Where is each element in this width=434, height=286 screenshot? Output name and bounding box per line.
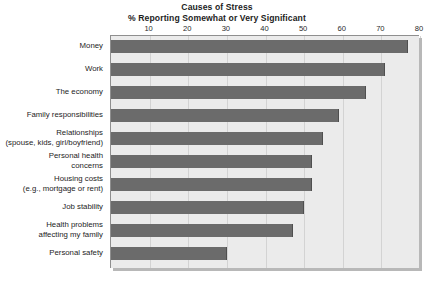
category-label-0: Money	[0, 41, 103, 50]
bar-3	[111, 109, 339, 122]
category-label-1: Work	[0, 64, 103, 73]
category-label-2: The economy	[0, 87, 103, 96]
bar-9	[111, 247, 227, 260]
category-label-5: Personal health concerns	[0, 151, 103, 169]
category-label-6: Housing costs (e.g., mortgage or rent)	[0, 174, 103, 192]
x-axis-tick-labels: 1020304050607080	[0, 24, 434, 35]
bar-7	[111, 201, 304, 214]
chart-title-block: Causes of Stress % Reporting Somewhat or…	[0, 2, 434, 24]
bar-6	[111, 178, 312, 191]
y-axis-category-labels: MoneyWorkThe economyFamily responsibilit…	[0, 35, 107, 268]
x-tick-80: 80	[415, 24, 423, 33]
stress-causes-bar-chart: Causes of Stress % Reporting Somewhat or…	[0, 0, 434, 286]
bar-2	[111, 86, 366, 99]
x-tick-50: 50	[299, 24, 307, 33]
bar-4	[111, 132, 323, 145]
plot-shadow-bottom	[113, 268, 422, 271]
x-tick-40: 40	[260, 24, 268, 33]
x-tick-20: 20	[183, 24, 191, 33]
x-tick-30: 30	[222, 24, 230, 33]
category-label-9: Personal safety	[0, 248, 103, 257]
x-tick-10: 10	[144, 24, 152, 33]
category-label-3: Family responsibilities	[0, 110, 103, 119]
category-label-4: Relationships (spouse, kids, girl/boyfri…	[0, 128, 103, 146]
bar-0	[111, 40, 408, 53]
x-tick-60: 60	[338, 24, 346, 33]
chart-title: Causes of Stress	[0, 2, 434, 13]
bar-1	[111, 63, 385, 76]
plot-shadow-right	[419, 38, 422, 271]
category-label-8: Health problems affecting my family	[0, 220, 103, 238]
plot-area	[110, 35, 419, 268]
chart-subtitle: % Reporting Somewhat or Very Significant	[0, 13, 434, 24]
category-label-7: Job stability	[0, 202, 103, 211]
bar-8	[111, 224, 293, 237]
bar-5	[111, 155, 312, 168]
x-tick-70: 70	[376, 24, 384, 33]
